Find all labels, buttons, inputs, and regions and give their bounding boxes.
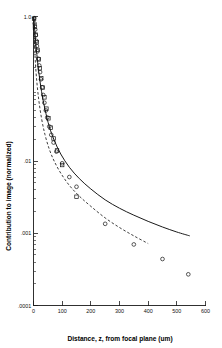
data-markers-layer: [32, 16, 190, 276]
dashed-fit-curve: [34, 28, 148, 244]
y-tick-label: .001: [21, 230, 32, 236]
x-axis-major-ticks: [34, 301, 206, 305]
x-tick-label: 400: [144, 308, 153, 314]
square-marker: [75, 195, 79, 199]
solid-fit-curve: [34, 17, 190, 236]
x-axis-title: Distance, z, from focal plane (um): [67, 335, 172, 343]
y-tick-label: .0001: [18, 303, 32, 309]
y-axis-tick-labels: 1.0.01.001.0001: [18, 14, 32, 309]
fit-curves-layer: [34, 17, 190, 244]
chart-figure: 1.0.01.001.0001 0100200300400500600 Cont…: [0, 0, 222, 348]
x-tick-label: 500: [172, 308, 181, 314]
circle-marker: [75, 185, 79, 189]
circle-marker: [103, 222, 107, 226]
x-tick-label: 0: [32, 308, 35, 314]
circle-marker: [132, 243, 136, 247]
y-axis-title: Contribution to image (normalized): [5, 141, 13, 251]
series-squares: [32, 17, 78, 198]
x-tick-label: 200: [86, 308, 95, 314]
x-axis-tick-labels: 0100200300400500600: [32, 308, 210, 314]
circle-marker: [67, 175, 71, 179]
x-tick-label: 100: [58, 308, 67, 314]
y-tick-label: 1.0: [24, 14, 32, 20]
series-circles: [32, 16, 190, 276]
circle-marker: [186, 272, 190, 276]
contribution-to-image-scatter-plot: 1.0.01.001.0001 0100200300400500600 Cont…: [0, 0, 222, 348]
y-tick-label: .01: [24, 158, 32, 164]
circle-marker: [161, 257, 165, 261]
plot-axes: [34, 17, 206, 306]
x-tick-label: 600: [201, 308, 210, 314]
x-tick-label: 300: [115, 308, 124, 314]
